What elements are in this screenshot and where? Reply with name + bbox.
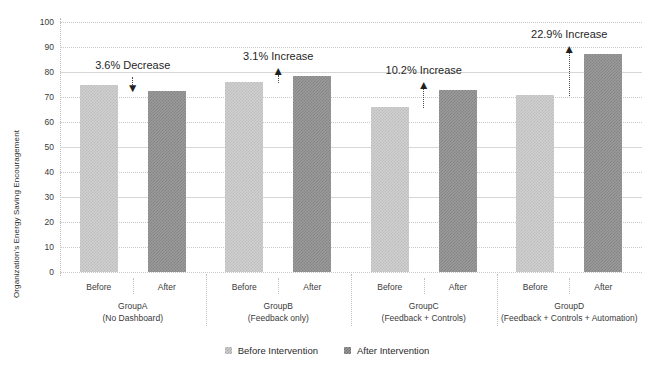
group-label-groupb: GroupB(Feedback only) bbox=[248, 300, 309, 324]
bar-groupc-before bbox=[371, 107, 409, 272]
gridline bbox=[60, 22, 642, 23]
bar-groupb-before bbox=[225, 82, 263, 272]
annotation-groupc: 10.2% Increase bbox=[386, 64, 462, 76]
y-axis-tick-label: 30 bbox=[45, 192, 54, 202]
legend-swatch-before bbox=[225, 347, 232, 354]
chart-legend: Before InterventionAfter Intervention bbox=[0, 345, 654, 356]
y-axis-tick-label: 50 bbox=[45, 142, 54, 152]
x-tick-groupb-before: Before bbox=[232, 282, 257, 292]
y-axis-tick-label: 20 bbox=[45, 217, 54, 227]
group-name: GroupA bbox=[103, 300, 163, 312]
x-tick-groupc-before: Before bbox=[377, 282, 402, 292]
tick-separator bbox=[278, 278, 279, 294]
bar-groupd-after bbox=[584, 54, 622, 272]
group-condition: (No Dashboard) bbox=[103, 312, 163, 324]
bar-groupb-after bbox=[293, 76, 331, 272]
group-label-groupd: GroupD(Feedback + Controls + Automation) bbox=[501, 300, 638, 324]
y-axis-title: Organization's Energy Saving Encourageme… bbox=[12, 58, 21, 298]
group-name: GroupB bbox=[248, 300, 309, 312]
tick-separator bbox=[424, 278, 425, 294]
annotation-arrow-down: ▼ bbox=[127, 77, 139, 94]
x-tick-groupd-before: Before bbox=[523, 282, 548, 292]
group-label-groupc: GroupC(Feedback + Controls) bbox=[382, 300, 466, 324]
bar-groupa-before bbox=[80, 85, 118, 273]
gridline bbox=[60, 72, 642, 73]
y-axis-tick-label: 90 bbox=[45, 42, 54, 52]
y-axis-tick-label: 0 bbox=[49, 267, 54, 277]
y-axis-tick-label: 80 bbox=[45, 67, 54, 77]
legend-swatch-after bbox=[344, 347, 351, 354]
x-tick-groupc-after: After bbox=[449, 282, 467, 292]
group-separator bbox=[206, 274, 207, 326]
x-tick-groupd-after: After bbox=[594, 282, 612, 292]
legend-label: Before Intervention bbox=[238, 345, 318, 356]
annotation-groupb: 3.1% Increase bbox=[243, 50, 313, 62]
group-name: GroupD bbox=[501, 300, 638, 312]
bar-chart: Organization's Energy Saving Encourageme… bbox=[0, 0, 654, 379]
y-axis-tick-label: 60 bbox=[45, 117, 54, 127]
gridline bbox=[60, 47, 642, 48]
annotation-groupa: 3.6% Decrease bbox=[95, 59, 170, 71]
gridline bbox=[60, 272, 642, 273]
group-separator bbox=[497, 274, 498, 326]
tick-separator bbox=[569, 278, 570, 294]
group-separator bbox=[351, 274, 352, 326]
legend-item: After Intervention bbox=[344, 345, 429, 356]
bar-groupc-after bbox=[439, 90, 477, 272]
annotation-arrow-up: ▲ bbox=[418, 82, 430, 109]
x-tick-groupa-before: Before bbox=[86, 282, 111, 292]
tick-separator bbox=[133, 278, 134, 294]
legend-item: Before Intervention bbox=[225, 345, 318, 356]
y-axis-tick-label: 40 bbox=[45, 167, 54, 177]
y-axis-tick-label: 10 bbox=[45, 242, 54, 252]
annotation-arrow-up: ▲ bbox=[563, 46, 575, 97]
group-condition: (Feedback + Controls) bbox=[382, 312, 466, 324]
y-axis-tick-label: 70 bbox=[45, 92, 54, 102]
annotation-arrow-up: ▲ bbox=[272, 68, 284, 84]
plot-area: 10090807060504030201003.6% Decrease▼3.1%… bbox=[60, 22, 642, 272]
x-tick-groupb-after: After bbox=[303, 282, 321, 292]
bar-groupd-before bbox=[516, 95, 554, 273]
group-condition: (Feedback + Controls + Automation) bbox=[501, 312, 638, 324]
annotation-groupd: 22.9% Increase bbox=[531, 28, 607, 40]
group-name: GroupC bbox=[382, 300, 466, 312]
legend-label: After Intervention bbox=[357, 345, 429, 356]
group-condition: (Feedback only) bbox=[248, 312, 309, 324]
x-tick-groupa-after: After bbox=[158, 282, 176, 292]
y-axis-tick-label: 100 bbox=[40, 17, 54, 27]
bar-groupa-after bbox=[148, 91, 186, 272]
group-label-groupa: GroupA(No Dashboard) bbox=[103, 300, 163, 324]
